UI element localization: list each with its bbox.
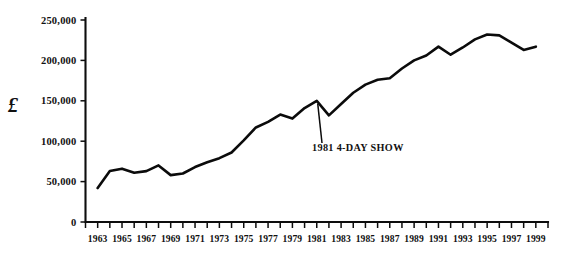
y-tick-label: 50,000: [46, 176, 76, 187]
x-tick-label: 1989: [404, 233, 424, 244]
y-axis-tick-labels: 050,000100,000150,000200,000250,000: [41, 15, 77, 228]
line-chart: £ 050,000100,000150,000200,000250,000 19…: [0, 0, 571, 265]
y-tick-label: 200,000: [41, 55, 77, 66]
data-line-receipts: [98, 35, 536, 189]
x-tick-label: 1979: [283, 233, 303, 244]
x-tick-label: 1965: [112, 233, 132, 244]
y-tick-label: 150,000: [41, 95, 77, 106]
x-tick-label: 1997: [502, 233, 522, 244]
axis-lines: [86, 18, 549, 222]
axes: [86, 18, 549, 222]
x-tick-label: 1985: [356, 233, 376, 244]
x-tick-label: 1969: [161, 233, 181, 244]
x-tick-label: 1977: [258, 233, 278, 244]
x-tick-label: 1987: [380, 233, 400, 244]
annotation-leader-line: [318, 104, 322, 143]
y-axis-title: £: [7, 94, 19, 116]
x-tick-label: 1991: [429, 233, 449, 244]
y-tick-label: 250,000: [41, 15, 77, 26]
y-axis-title-group: £: [7, 94, 19, 116]
y-tick-label: 100,000: [41, 136, 77, 147]
x-tick-label: 1993: [453, 233, 473, 244]
y-tick-label: 0: [71, 217, 76, 228]
x-tick-label: 1975: [234, 233, 254, 244]
x-axis-tick-labels: 1963196519671969197119731975197719791981…: [88, 233, 546, 244]
x-tick-label: 1967: [137, 233, 157, 244]
annotation-1981-4-day-show: 1981 4-DAY SHOW: [312, 142, 404, 153]
x-tick-label: 1963: [88, 233, 108, 244]
chart-page: £ 050,000100,000150,000200,000250,000 19…: [0, 0, 571, 265]
x-tick-label: 1999: [526, 233, 546, 244]
x-tick-label: 1973: [210, 233, 230, 244]
x-tick-label: 1981: [307, 233, 327, 244]
x-tick-label: 1995: [477, 233, 497, 244]
series-group: [98, 35, 536, 189]
x-tick-label: 1983: [331, 233, 351, 244]
x-tick-label: 1971: [185, 233, 205, 244]
